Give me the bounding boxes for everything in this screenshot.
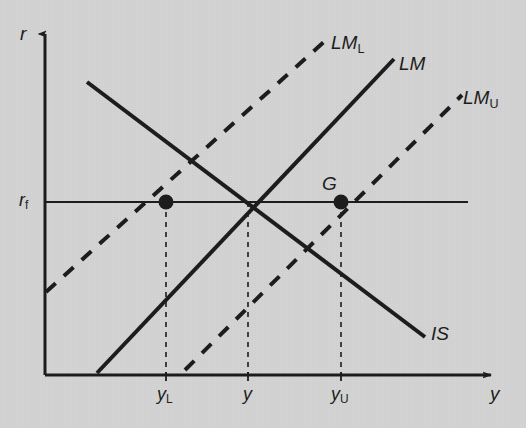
y-axis-label: r [20, 24, 26, 43]
lm-curve-label: LM [399, 54, 425, 73]
point-G-marker [334, 195, 349, 210]
yL-tick-label: yL [157, 385, 173, 403]
x-axis-label: y [490, 384, 500, 403]
yL-subscript: L [166, 392, 173, 406]
point-yL-marker [159, 195, 174, 210]
lm-upper-curve-label: LMU [463, 88, 499, 107]
is-lm-plot [0, 0, 526, 428]
yU-subscript: U [340, 392, 349, 406]
lm-lower-curve [46, 40, 326, 292]
lm-lower-curve-label: LML [331, 33, 364, 52]
lm-lower-subscript: L [357, 42, 364, 56]
droplines [166, 202, 341, 375]
lm-curve [97, 59, 394, 373]
point-G-label: G [322, 174, 337, 193]
yU-tick-label: yU [331, 385, 349, 403]
is-lm-figure: r y rf yL y yU LML LM LMU IS G [0, 0, 526, 428]
rf-tick-label: rf [19, 191, 28, 209]
is-curve-label: IS [431, 324, 449, 343]
rf-subscript: f [25, 198, 28, 212]
lm-upper-subscript: U [489, 97, 498, 111]
axis-lines [45, 34, 491, 375]
y-tick-label: y [243, 385, 252, 403]
